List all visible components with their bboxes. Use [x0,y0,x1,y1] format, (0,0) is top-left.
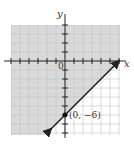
point-marker [63,113,68,118]
origin-label: 0 [58,61,64,71]
inequality-graph [0,0,134,145]
y-axis-label: y [57,8,63,19]
x-axis-label: x [124,58,130,69]
point-label: (0, −6) [69,110,101,120]
